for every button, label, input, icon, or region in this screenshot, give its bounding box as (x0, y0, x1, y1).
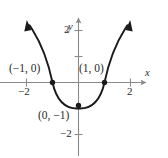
x-tick-label-minus2: −2 (18, 86, 30, 97)
point-label-right-root: (1, 0) (79, 63, 104, 75)
y-tick-label-minus2: −2 (60, 128, 72, 139)
point-dot-right-root (102, 80, 107, 85)
coordinate-plane-svg (0, 0, 168, 158)
point-dot-vertex (76, 103, 81, 108)
x-tick-label-2: 2 (127, 86, 133, 97)
graph-figure: y x −2 2 2 −2 (−1, 0) (1, 0) (0, −1) (0, 0, 168, 158)
x-axis-label: x (145, 68, 150, 79)
point-dot-left-root (50, 80, 55, 85)
point-label-left-root: (−1, 0) (9, 63, 40, 75)
y-tick-label-2: 2 (64, 24, 70, 35)
point-label-vertex: (0, −1) (38, 110, 69, 122)
